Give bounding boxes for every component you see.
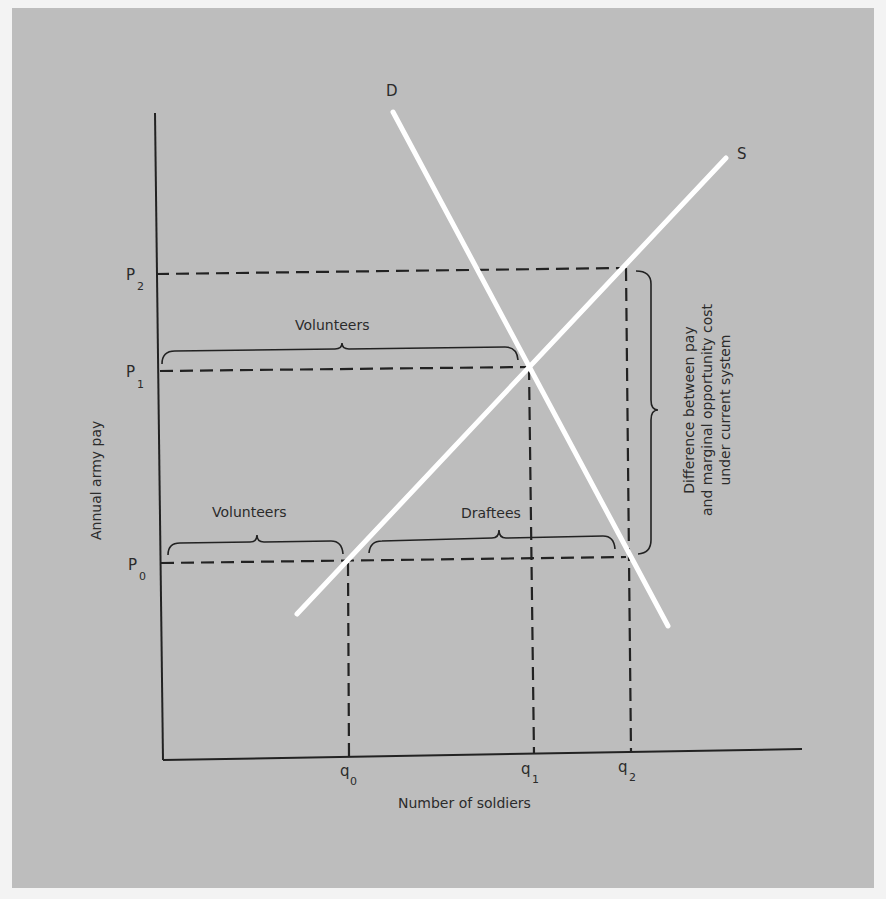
draftees-label: Draftees [461, 505, 521, 521]
svg-text:2: 2 [629, 771, 636, 784]
x-axis [163, 749, 802, 760]
q1-label: q 1 [521, 760, 539, 786]
x-axis-title: Number of soldiers [398, 795, 531, 811]
svg-text:P: P [128, 556, 137, 574]
p1-label: P 1 [126, 363, 144, 391]
svg-text:and marginal opportunity cost: and marginal opportunity cost [699, 303, 715, 516]
svg-text:q: q [340, 762, 350, 780]
p2-guide [156, 268, 625, 274]
volunteers-top-brace [162, 343, 518, 364]
q0-guide [348, 563, 349, 758]
q1-guide [529, 367, 534, 754]
q2-guide [626, 268, 631, 752]
svg-text:1: 1 [137, 378, 144, 391]
supply-curve [297, 158, 726, 614]
svg-text:1: 1 [532, 773, 539, 786]
svg-text:P: P [126, 266, 135, 284]
volunteers-top-label: Volunteers [295, 317, 369, 333]
q0-label: q 0 [340, 762, 357, 788]
svg-text:q: q [618, 758, 628, 776]
p0-guide [161, 557, 626, 563]
difference-brace [636, 271, 658, 554]
p1-guide [160, 367, 528, 371]
volunteers-bottom-brace [168, 535, 343, 555]
demand-label: D [386, 82, 398, 100]
svg-text:q: q [521, 760, 531, 778]
q2-label: q 2 [618, 758, 636, 784]
volunteers-bottom-label: Volunteers [212, 504, 286, 520]
svg-text:P: P [126, 363, 135, 381]
draftees-brace [369, 530, 615, 553]
svg-text:2: 2 [137, 280, 144, 293]
svg-text:under current system: under current system [717, 334, 733, 485]
svg-text:0: 0 [139, 570, 146, 583]
p2-label: P 2 [126, 266, 144, 293]
difference-annotation: Difference between pay and marginal oppo… [681, 303, 733, 516]
y-axis [155, 113, 163, 760]
supply-label: S [737, 145, 747, 163]
svg-text:Difference between pay: Difference between pay [681, 326, 697, 493]
p0-label: P 0 [128, 556, 146, 583]
svg-text:0: 0 [350, 775, 357, 788]
supply-demand-chart: D S P 2 P 1 P 0 q 0 q 1 q 2 Number of so… [0, 0, 886, 899]
y-axis-title: Annual army pay [88, 421, 104, 540]
